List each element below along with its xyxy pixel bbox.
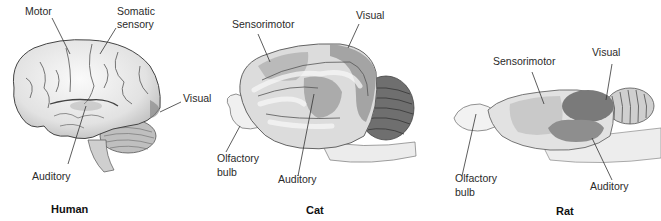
rat-brain-panel: Sensorimotor Visual Olfactory bulb Audit… bbox=[440, 0, 661, 221]
label-olfactory-bulb-2: bulb bbox=[217, 166, 237, 179]
label-olfactory-bulb-2: bulb bbox=[455, 186, 475, 199]
caption-human: Human bbox=[51, 203, 88, 215]
caption-rat: Rat bbox=[556, 205, 574, 217]
rat-visual-region bbox=[562, 90, 614, 122]
label-sensorimotor: Sensorimotor bbox=[493, 55, 555, 68]
label-somatic-sensory-1: Somatic bbox=[117, 5, 155, 18]
human-brain-panel: Motor Somatic sensory Visual Auditory Hu… bbox=[0, 0, 215, 221]
cat-cerebrum bbox=[240, 44, 377, 149]
label-olfactory-bulb-1: Olfactory bbox=[455, 172, 497, 185]
label-sensorimotor: Sensorimotor bbox=[232, 18, 294, 31]
label-motor: Motor bbox=[25, 5, 52, 18]
label-auditory: Auditory bbox=[278, 173, 317, 186]
label-olfactory-bulb-1: Olfactory bbox=[217, 152, 259, 165]
human-cerebrum bbox=[13, 40, 160, 139]
label-auditory: Auditory bbox=[590, 180, 629, 193]
label-visual: Visual bbox=[592, 46, 620, 59]
label-visual: Visual bbox=[356, 9, 384, 22]
rat-cerebrum bbox=[488, 90, 614, 150]
label-auditory: Auditory bbox=[32, 170, 71, 183]
human-brain-illustration bbox=[0, 0, 215, 221]
label-somatic-sensory-2: sensory bbox=[117, 18, 154, 31]
cat-brain-panel: Sensorimotor Visual Olfactory bulb Audit… bbox=[200, 0, 430, 221]
caption-cat: Cat bbox=[306, 204, 324, 216]
cat-brain-illustration bbox=[200, 0, 430, 221]
